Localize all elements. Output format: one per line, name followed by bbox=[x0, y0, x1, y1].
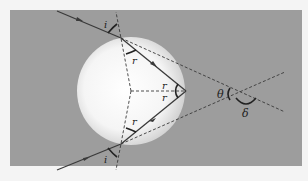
label-theta: θ bbox=[217, 88, 224, 101]
label-i-bottom: i bbox=[104, 154, 107, 165]
rainbow-ray-diagram: i r r r r i θ δ bbox=[0, 0, 308, 181]
label-delta: δ bbox=[242, 107, 249, 120]
label-i-top: i bbox=[104, 19, 107, 30]
diagram-canvas: i r r r r i θ δ bbox=[0, 0, 308, 181]
